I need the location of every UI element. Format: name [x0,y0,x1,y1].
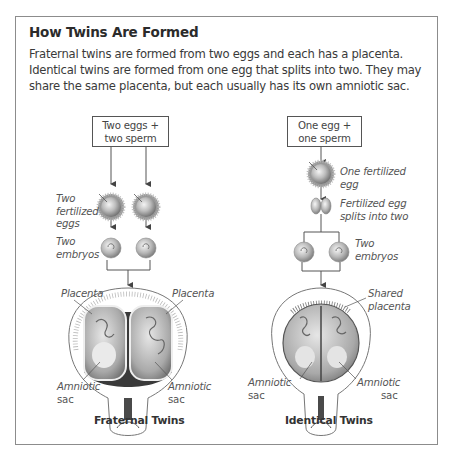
label-line: Amniotic [248,377,291,390]
label-line: Fertilized egg [340,198,408,211]
fraternal-start-box: Two eggs + two sperm [92,116,169,147]
label-line: eggs [56,218,99,231]
label-line: embryos [56,249,99,262]
identical-embryos-label: Two embryos [355,238,398,263]
embryo-icon [136,238,156,258]
label-line: Amniotic [357,377,400,390]
amniotic-sac-right-label: Amniotic sac [168,381,211,406]
label-line: sac [248,390,291,403]
fertilized-egg-icon [133,194,159,220]
label-line: One fertilized [340,166,406,179]
split-egg-icon [311,198,331,214]
box-line: two sperm [93,133,168,146]
fertilized-egg-icon [308,161,334,187]
label-line: placenta [368,301,411,314]
label-line: sac [168,394,211,407]
label-line: Amniotic [57,381,100,394]
placenta-right-label: Placenta [172,288,214,301]
amniotic-sac-left-label: Amniotic sac [57,381,100,406]
embryo-icon [294,242,314,262]
embryo-icon [101,238,121,258]
identical-amniotic-left-label: Amniotic sac [248,377,291,402]
label-line: Two [56,193,99,206]
box-line: one sperm [288,133,361,146]
identical-start-box: One egg + one sperm [287,116,362,147]
fraternal-caption: Fraternal Twins [94,414,185,427]
fertilized-egg-icon [98,194,124,220]
label-line: egg [340,179,406,192]
identical-amniotic-right-label: Amniotic sac [357,377,400,402]
split-egg-label: Fertilized egg splits into two [340,198,408,223]
label-line: Two [355,238,398,251]
label-line: Shared [368,288,411,301]
label-line: Amniotic [168,381,211,394]
embryos-label: Two embryos [56,236,99,261]
shared-placenta-label: Shared placenta [368,288,411,313]
label-line: embryos [355,251,398,264]
label-line: sac [57,394,100,407]
box-line: Two eggs + [93,120,168,133]
box-line: One egg + [288,120,361,133]
label-line: sac [357,390,400,403]
identical-caption: Identical Twins [285,414,373,427]
label-line: splits into two [340,211,408,224]
fertilized-eggs-label: Two fertilized eggs [56,193,99,231]
label-line: Two [56,236,99,249]
embryo-icon [329,242,349,262]
one-fertilized-egg-label: One fertilized egg [340,166,406,191]
placenta-left-label: Placenta [61,288,103,301]
label-line: fertilized [56,206,99,219]
